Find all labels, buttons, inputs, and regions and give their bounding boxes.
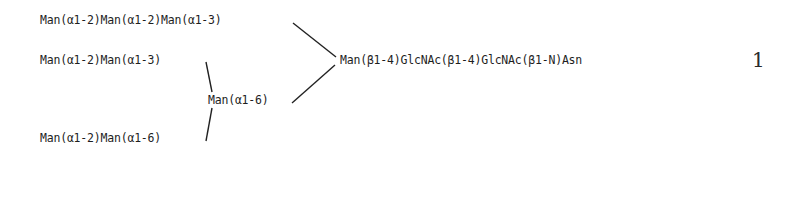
bond-arm-a-to-core	[293, 23, 336, 57]
arm-b-upper-label: Man(α1-2)Man(α1-3)	[40, 53, 161, 67]
arm-a-top-label: Man(α1-2)Man(α1-2)Man(α1-3)	[40, 13, 222, 27]
core-chain-label: Man(β1-4)GlcNAc(β1-4)GlcNAc(β1-N)Asn	[340, 53, 582, 67]
bond-arm-b-lower-to-branch	[206, 108, 212, 141]
arm-b-lower-label: Man(α1-2)Man(α1-6)	[40, 131, 161, 145]
glycan-structure-diagram: Man(α1-2)Man(α1-2)Man(α1-3) Man(α1-2)Man…	[0, 0, 799, 212]
compound-number: 1	[752, 49, 765, 71]
bond-branch-to-core	[292, 65, 335, 103]
branch-node-label: Man(α1-6)	[208, 93, 269, 107]
bond-arm-b-upper-to-branch	[206, 62, 212, 92]
linkage-lines	[0, 0, 799, 212]
